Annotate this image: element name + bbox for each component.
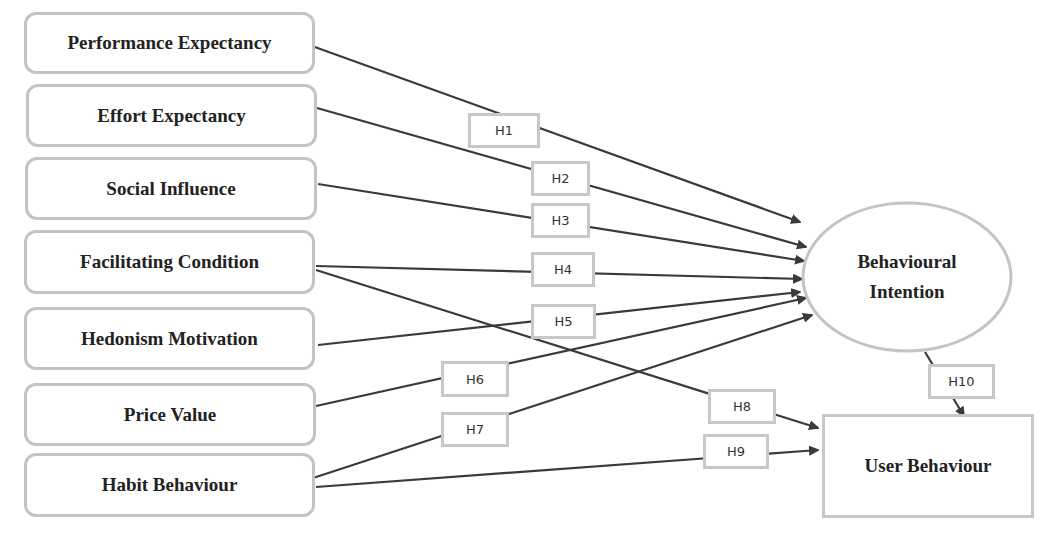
hypothesis-label-h4: H4 (531, 252, 595, 287)
hypothesis-text: H1 (495, 123, 513, 138)
hypothesis-label-h7: H7 (441, 412, 509, 447)
hypothesis-label-h5: H5 (531, 304, 596, 339)
hypothesis-text: H8 (733, 399, 751, 414)
behavioural-intention-line2: Intention (870, 277, 945, 307)
hypothesis-label-h8: H8 (708, 389, 776, 424)
user-behaviour-label: User Behaviour (865, 451, 992, 481)
hypothesis-text: H7 (466, 422, 484, 437)
construct-label: Facilitating Condition (80, 251, 259, 273)
construct-label: Price Value (124, 404, 216, 426)
construct-label: Social Influence (106, 178, 235, 200)
hypothesis-text: H6 (466, 372, 484, 387)
hypothesis-label-h3: H3 (531, 203, 590, 238)
construct-price-value: Price Value (24, 383, 316, 446)
hypothesis-text: H5 (554, 314, 572, 329)
construct-label: Hedonism Motivation (81, 328, 258, 350)
hypothesis-text: H2 (551, 171, 569, 186)
construct-effort-expectancy: Effort Expectancy (26, 84, 317, 147)
research-model-diagram: Performance Expectancy Effort Expectancy… (0, 0, 1048, 536)
behavioural-intention-node: Behavioural Intention (802, 202, 1012, 352)
hypothesis-label-h9: H9 (703, 434, 769, 469)
hypothesis-text: H3 (551, 213, 569, 228)
construct-label: Habit Behaviour (102, 474, 238, 496)
hypothesis-text: H9 (727, 444, 745, 459)
construct-performance-expectancy: Performance Expectancy (24, 12, 315, 74)
construct-label: Effort Expectancy (97, 105, 245, 127)
hypothesis-label-h10: H10 (928, 364, 995, 399)
hypothesis-text: H4 (554, 262, 572, 277)
construct-social-influence: Social Influence (25, 157, 317, 220)
construct-facilitating-condition: Facilitating Condition (24, 230, 315, 294)
behavioural-intention-line1: Behavioural (857, 247, 956, 277)
user-behaviour-node: User Behaviour (822, 414, 1034, 518)
construct-habit-behaviour: Habit Behaviour (24, 453, 315, 517)
hypothesis-label-h2: H2 (531, 161, 590, 196)
hypothesis-label-h6: H6 (441, 361, 509, 397)
hypothesis-label-h1: H1 (468, 113, 540, 148)
construct-label: Performance Expectancy (67, 32, 271, 54)
hypothesis-text: H10 (948, 374, 974, 389)
construct-hedonism-motivation: Hedonism Motivation (24, 307, 315, 370)
